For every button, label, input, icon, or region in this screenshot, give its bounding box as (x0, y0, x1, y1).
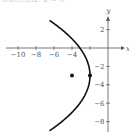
axes: xy (6, 7, 129, 132)
x-axis-label: x (126, 45, 129, 53)
y-arrow-icon (106, 16, 110, 21)
x-tick-label: −10 (11, 51, 26, 59)
x-arrow-icon (121, 46, 125, 50)
x-tick-label: −6 (49, 51, 60, 59)
x-tick-label: −4 (67, 51, 78, 59)
vertex-point (88, 74, 92, 78)
y-tick-label: −4 (94, 81, 105, 89)
tick-marks: −10−8−6−42−2−4−6−8 (11, 26, 110, 126)
y-axis-label: y (106, 7, 112, 15)
data-points (70, 74, 92, 78)
y-tick-label: −6 (94, 100, 105, 108)
x-tick-label: −8 (31, 51, 41, 59)
y-tick-label: −2 (94, 63, 104, 71)
parabola-curve (50, 20, 91, 130)
y-tick-label: 2 (100, 26, 104, 34)
parabola-plot: xy −10−8−6−42−2−4−6−8 (0, 0, 129, 134)
y-tick-label: −8 (94, 118, 104, 126)
focus-point (70, 74, 74, 78)
